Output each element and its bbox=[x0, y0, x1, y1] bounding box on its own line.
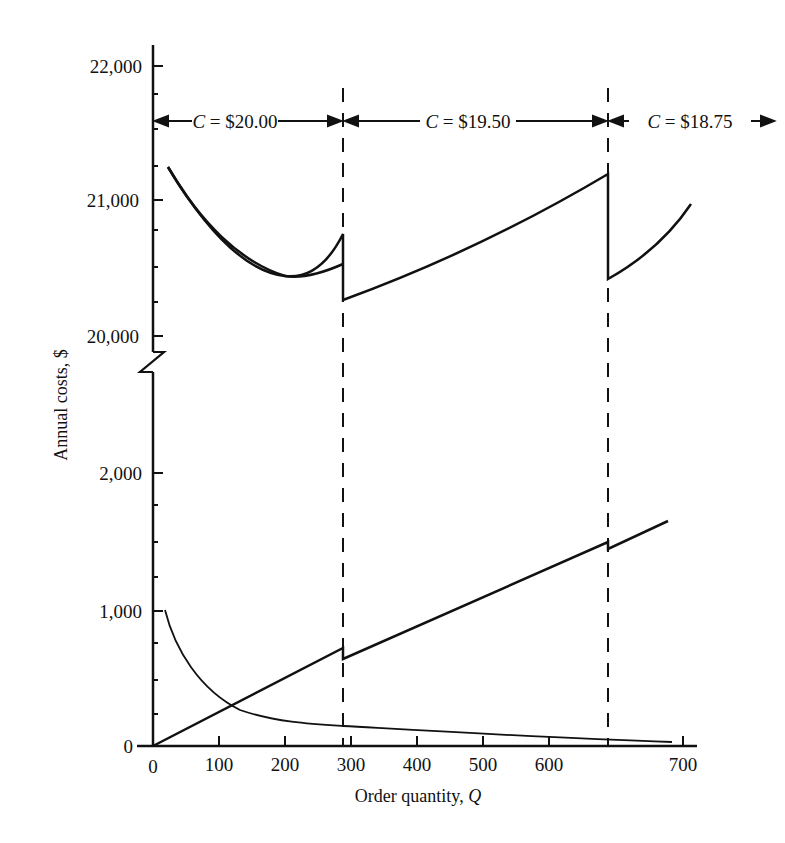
y-axis bbox=[140, 45, 164, 746]
x-tick-label-200: 200 bbox=[271, 754, 300, 775]
holding-cost-line bbox=[153, 521, 668, 746]
total-cost-curve-c20 bbox=[168, 167, 285, 276]
x-tick-label-700: 700 bbox=[669, 754, 698, 775]
region-label-1875: C = $18.75 bbox=[647, 111, 732, 132]
quantity-discount-cost-chart: 22,000 21,000 20,000 2,000 1,000 0 0 100… bbox=[0, 0, 785, 843]
y-tick-label-2000: 2,000 bbox=[99, 463, 142, 484]
arrow-right-icon bbox=[761, 116, 774, 126]
y-lower-ticks bbox=[153, 473, 163, 714]
y-tick-label-1000: 1,000 bbox=[99, 601, 142, 622]
axis-break-icon bbox=[140, 352, 164, 372]
y-tick-label-21000: 21,000 bbox=[87, 190, 139, 211]
arrow-left-icon bbox=[610, 116, 623, 126]
y-tick-label-22000: 22,000 bbox=[90, 56, 142, 77]
x-tick-label-100: 100 bbox=[205, 754, 234, 775]
arrow-left-icon bbox=[345, 116, 358, 126]
x-tick-label-600: 600 bbox=[535, 754, 564, 775]
y-axis-title: Annual costs, $ bbox=[51, 349, 71, 461]
ordering-cost-curve bbox=[165, 610, 672, 742]
arrow-right-icon bbox=[328, 116, 341, 126]
arrow-left-icon bbox=[155, 116, 168, 126]
y-tick-label-20000: 20,000 bbox=[87, 326, 139, 347]
x-ticks bbox=[219, 736, 683, 746]
x-tick-label-500: 500 bbox=[469, 754, 498, 775]
y-upper-ticks bbox=[153, 66, 163, 336]
arrow-right-icon bbox=[593, 116, 606, 126]
y-tick-label-0: 0 bbox=[124, 736, 134, 757]
region-label-1950: C = $19.50 bbox=[425, 111, 510, 132]
x-tick-label-0: 0 bbox=[148, 756, 158, 777]
x-tick-label-400: 400 bbox=[403, 754, 432, 775]
x-axis-title: Order quantity, Q bbox=[355, 786, 481, 806]
total-cost-curve bbox=[168, 167, 691, 300]
region-label-20: C = $20.00 bbox=[192, 111, 277, 132]
price-break-lines bbox=[343, 88, 608, 746]
x-tick-label-300: 300 bbox=[337, 754, 366, 775]
